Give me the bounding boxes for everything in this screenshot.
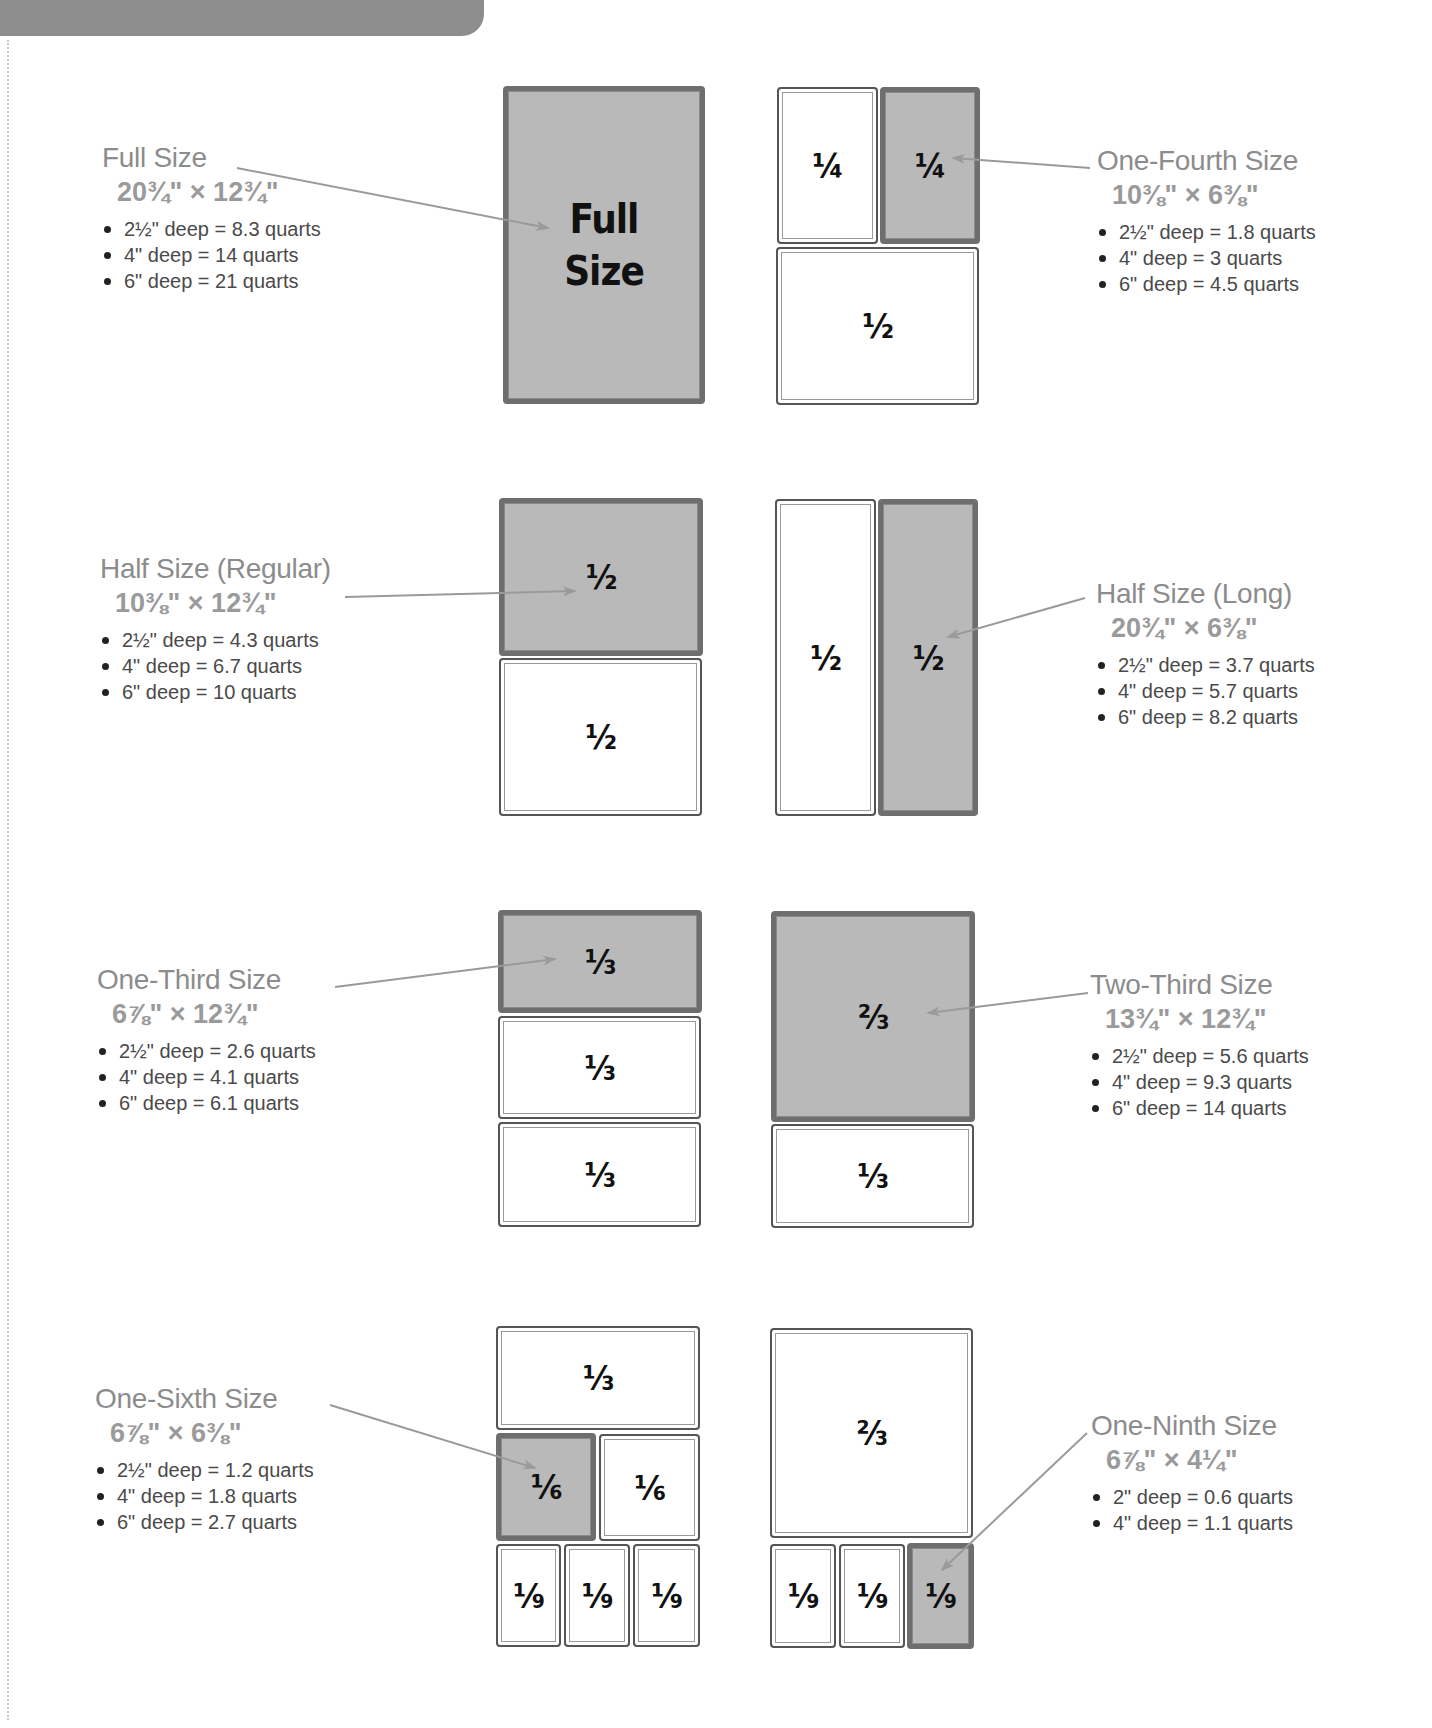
pan-label: ⅓ (583, 1358, 614, 1398)
capacity-item: 4" deep = 6.7 quarts (100, 653, 331, 679)
pan-two-third-highlighted: ⅔ (771, 911, 975, 1122)
pan-half-regular-highlighted: ½ (499, 498, 703, 656)
pan-half-long-highlighted: ½ (878, 499, 978, 816)
section-dimensions: 13¾" × 12¾" (1105, 1001, 1309, 1037)
pan-label: ¼ (915, 146, 946, 186)
pan-third-middle: ⅓ (498, 1016, 701, 1119)
section-dimensions: 10⅜" × 12¾" (115, 585, 331, 621)
capacity-item: 2½" deep = 2.6 quarts (97, 1038, 316, 1064)
pan-two-third: ⅔ (770, 1328, 973, 1538)
pan-label: ⅙ (531, 1467, 562, 1507)
capacity-list: 2½" deep = 5.6 quarts 4" deep = 9.3 quar… (1090, 1043, 1309, 1121)
pan-label: ⅙ (634, 1468, 665, 1508)
pan-sixth-highlighted: ⅙ (496, 1433, 596, 1541)
capacity-item: 4" deep = 14 quarts (102, 242, 321, 268)
header-banner (0, 0, 484, 36)
pan-ninth: ⅑ (496, 1544, 561, 1647)
section-dimensions: 6⅞" × 12¾" (112, 996, 316, 1032)
pan-third-bottom: ⅓ (498, 1122, 701, 1227)
capacity-item: 6" deep = 21 quarts (102, 268, 321, 294)
label-half-size-regular: Half Size (Regular) 10⅜" × 12¾" 2½" deep… (100, 553, 331, 705)
pan-label: ⅔ (858, 997, 889, 1037)
section-title: Two-Third Size (1090, 969, 1309, 1001)
pan-half-regular: ½ (499, 658, 702, 816)
pan-third-highlighted: ⅓ (498, 910, 702, 1013)
section-dimensions: 6⅞" × 6⅜" (110, 1415, 314, 1451)
label-one-third-size: One-Third Size 6⅞" × 12¾" 2½" deep = 2.6… (97, 964, 316, 1116)
capacity-list: 2½" deep = 2.6 quarts 4" deep = 4.1 quar… (97, 1038, 316, 1116)
capacity-item: 6" deep = 8.2 quarts (1096, 704, 1315, 730)
capacity-list: 2½" deep = 4.3 quarts 4" deep = 6.7 quar… (100, 627, 331, 705)
pan-half-bottom: ½ (776, 247, 979, 405)
label-one-fourth-size: One-Fourth Size 10⅜" × 6⅜" 2½" deep = 1.… (1097, 145, 1316, 297)
pan-label: ½ (810, 638, 841, 678)
capacity-item: 2½" deep = 4.3 quarts (100, 627, 331, 653)
label-one-sixth-size: One-Sixth Size 6⅞" × 6⅜" 2½" deep = 1.2 … (95, 1383, 314, 1535)
capacity-item: 2" deep = 0.6 quarts (1091, 1484, 1293, 1510)
section-title: One-Fourth Size (1097, 145, 1316, 177)
pan-label: ⅓ (857, 1156, 888, 1196)
pan-half-long: ½ (775, 499, 876, 816)
section-title: One-Third Size (97, 964, 316, 996)
capacity-item: 6" deep = 4.5 quarts (1097, 271, 1316, 297)
label-two-third-size: Two-Third Size 13¾" × 12¾" 2½" deep = 5.… (1090, 969, 1309, 1121)
pan-ninth-highlighted: ⅑ (907, 1543, 974, 1649)
section-dimensions: 6⅞" × 4¼" (1106, 1442, 1293, 1478)
label-half-size-long: Half Size (Long) 20¾" × 6⅜" 2½" deep = 3… (1096, 578, 1315, 730)
pan-label: ½ (913, 638, 944, 678)
pan-ninth: ⅑ (633, 1544, 700, 1647)
capacity-item: 6" deep = 2.7 quarts (95, 1509, 314, 1535)
pan-third-top: ⅓ (496, 1326, 700, 1430)
section-title: One-Sixth Size (95, 1383, 314, 1415)
pan-sixth: ⅙ (599, 1434, 700, 1541)
pan-ninth: ⅑ (564, 1544, 630, 1647)
capacity-list: 2" deep = 0.6 quarts 4" deep = 1.1 quart… (1091, 1484, 1293, 1536)
capacity-list: 2½" deep = 3.7 quarts 4" deep = 5.7 quar… (1096, 652, 1315, 730)
section-title: Half Size (Regular) (100, 553, 331, 585)
capacity-list: 2½" deep = 1.8 quarts 4" deep = 3 quarts… (1097, 219, 1316, 297)
capacity-item: 4" deep = 9.3 quarts (1090, 1069, 1309, 1095)
capacity-item: 2½" deep = 1.8 quarts (1097, 219, 1316, 245)
capacity-item: 4" deep = 5.7 quarts (1096, 678, 1315, 704)
pan-ninth: ⅑ (839, 1544, 905, 1648)
pan-label: ⅑ (582, 1576, 613, 1616)
capacity-item: 6" deep = 10 quarts (100, 679, 331, 705)
dotted-margin-line (7, 40, 9, 1720)
label-full-size: Full Size 20¾" × 12¾" 2½" deep = 8.3 qua… (102, 142, 321, 294)
pan-label: ⅑ (857, 1576, 888, 1616)
capacity-item: 6" deep = 6.1 quarts (97, 1090, 316, 1116)
capacity-list: 2½" deep = 8.3 quarts 4" deep = 14 quart… (102, 216, 321, 294)
pan-label: Full Size (564, 193, 644, 297)
pan-label: ½ (586, 557, 617, 597)
section-dimensions: 20¾" × 12¾" (117, 174, 321, 210)
section-title: Half Size (Long) (1096, 578, 1315, 610)
capacity-item: 2½" deep = 5.6 quarts (1090, 1043, 1309, 1069)
pan-label: ¼ (812, 146, 843, 186)
pan-label: ⅓ (584, 1048, 615, 1088)
pan-label: ½ (585, 717, 616, 757)
pan-ninth: ⅑ (770, 1544, 836, 1648)
capacity-item: 6" deep = 14 quarts (1090, 1095, 1309, 1121)
pan-label: ⅑ (513, 1576, 544, 1616)
pan-label: ⅓ (585, 942, 616, 982)
pan-quarter-left: ¼ (777, 87, 878, 244)
pan-label: ½ (862, 306, 893, 346)
pan-label: ⅔ (856, 1413, 887, 1453)
pan-quarter-highlighted: ¼ (880, 87, 980, 244)
section-title: Full Size (102, 142, 321, 174)
capacity-item: 2½" deep = 1.2 quarts (95, 1457, 314, 1483)
section-dimensions: 10⅜" × 6⅜" (1112, 177, 1316, 213)
capacity-item: 2½" deep = 3.7 quarts (1096, 652, 1315, 678)
pan-label: ⅑ (925, 1576, 956, 1616)
pan-label: ⅓ (584, 1155, 615, 1195)
capacity-item: 4" deep = 1.1 quarts (1091, 1510, 1293, 1536)
label-one-ninth-size: One-Ninth Size 6⅞" × 4¼" 2" deep = 0.6 q… (1091, 1410, 1293, 1536)
capacity-item: 4" deep = 3 quarts (1097, 245, 1316, 271)
pan-label: ⅑ (788, 1576, 819, 1616)
capacity-item: 4" deep = 1.8 quarts (95, 1483, 314, 1509)
section-title: One-Ninth Size (1091, 1410, 1293, 1442)
pan-label: ⅑ (651, 1576, 682, 1616)
capacity-list: 2½" deep = 1.2 quarts 4" deep = 1.8 quar… (95, 1457, 314, 1535)
pan-full-size: Full Size (503, 86, 705, 404)
section-dimensions: 20¾" × 6⅜" (1111, 610, 1315, 646)
